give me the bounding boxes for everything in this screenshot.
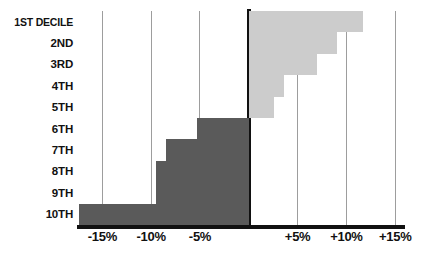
y-label-5th: 5TH bbox=[0, 97, 73, 118]
plot-area bbox=[77, 11, 403, 225]
bar-band bbox=[77, 54, 403, 75]
x-label-minus15: -15% bbox=[88, 229, 117, 244]
x-label-minus10: -10% bbox=[137, 229, 166, 244]
y-label-1st-decile: 1ST DECILE bbox=[0, 11, 73, 32]
bar-band bbox=[77, 32, 403, 53]
bar-band bbox=[77, 204, 403, 225]
x-label-plus5: +5% bbox=[285, 229, 310, 244]
bar-6th bbox=[197, 118, 249, 139]
bar-10th bbox=[79, 204, 249, 225]
y-axis-category-labels: 1ST DECILE2ND3RD4TH5TH6TH7TH8TH9TH10TH bbox=[0, 11, 73, 225]
bar-8th bbox=[156, 161, 249, 182]
y-label-3rd: 3RD bbox=[0, 54, 73, 75]
y-label-7th: 7TH bbox=[0, 139, 73, 160]
x-axis-tick-labels: -15%-10%-5%+5%+10%+15% bbox=[0, 229, 425, 249]
bar-band bbox=[77, 161, 403, 182]
bar-1st-decile bbox=[249, 11, 363, 32]
x-label-minus5: -5% bbox=[189, 229, 211, 244]
y-label-6th: 6TH bbox=[0, 118, 73, 139]
y-label-2nd: 2ND bbox=[0, 32, 73, 53]
x-label-plus15: +15% bbox=[379, 229, 411, 244]
bar-band bbox=[77, 11, 403, 32]
bar-band bbox=[77, 97, 403, 118]
y-label-9th: 9TH bbox=[0, 182, 73, 203]
y-label-10th: 10TH bbox=[0, 204, 73, 225]
decile-change-bar-chart: 1ST DECILE2ND3RD4TH5TH6TH7TH8TH9TH10TH -… bbox=[0, 0, 425, 253]
bar-3rd bbox=[249, 54, 317, 75]
y-label-4th: 4TH bbox=[0, 75, 73, 96]
y-label-8th: 8TH bbox=[0, 161, 73, 182]
bar-7th bbox=[166, 139, 249, 160]
bar-4th bbox=[249, 75, 284, 96]
bar-5th bbox=[249, 97, 274, 118]
bar-2nd bbox=[249, 32, 337, 53]
bar-band bbox=[77, 182, 403, 203]
bar-band bbox=[77, 75, 403, 96]
x-label-plus10: +10% bbox=[330, 229, 362, 244]
bar-band bbox=[77, 139, 403, 160]
bar-band bbox=[77, 118, 403, 139]
bar-9th bbox=[156, 182, 249, 203]
